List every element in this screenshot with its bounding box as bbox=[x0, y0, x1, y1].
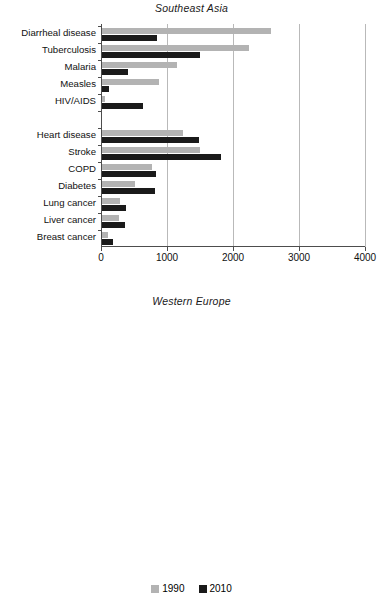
bar-2010 bbox=[102, 188, 155, 194]
y-axis-tick bbox=[98, 77, 101, 78]
y-axis-tick bbox=[98, 179, 101, 180]
bar-row-copd: COPD bbox=[101, 162, 365, 179]
bar-1990 bbox=[102, 198, 120, 204]
chart-title-southeast-asia: Southeast Asia bbox=[0, 2, 383, 14]
x-tick-label-2000: 2000 bbox=[222, 252, 244, 263]
bar-1990 bbox=[102, 62, 177, 68]
bar-row-diarrheal-disease: Diarrheal disease bbox=[101, 26, 365, 43]
x-tick-mark-2000 bbox=[233, 247, 234, 251]
y-axis-tick bbox=[98, 145, 101, 146]
x-tick-mark-4000 bbox=[365, 247, 366, 251]
bar-2010 bbox=[102, 69, 128, 75]
bar-1990 bbox=[102, 28, 271, 34]
category-label: Liver cancer bbox=[44, 214, 96, 225]
bar-row-measles: Measles bbox=[101, 77, 365, 94]
bar-2010 bbox=[102, 171, 156, 177]
y-axis-tick bbox=[98, 213, 101, 214]
bar-row-spacer bbox=[101, 111, 365, 128]
y-axis-tick bbox=[98, 60, 101, 61]
category-label: Breast cancer bbox=[37, 231, 96, 242]
figure-root: Southeast Asia 01000200030004000 Diarrhe… bbox=[0, 0, 383, 608]
legend-label-1990: 1990 bbox=[162, 583, 184, 594]
bar-1990 bbox=[102, 96, 105, 102]
legend-swatch-1990 bbox=[151, 585, 159, 593]
bar-row-lung-cancer: Lung cancer bbox=[101, 196, 365, 213]
x-tick-label-0: 0 bbox=[98, 252, 104, 263]
y-axis-tick bbox=[98, 162, 101, 163]
category-label: Heart disease bbox=[37, 129, 96, 140]
chart-panel-southeast-asia: Southeast Asia 01000200030004000 Diarrhe… bbox=[0, 0, 383, 285]
bar-row-tuberculosis: Tuberculosis bbox=[101, 43, 365, 60]
bar-row-hiv-aids: HIV/AIDS bbox=[101, 94, 365, 111]
bar-1990 bbox=[102, 181, 135, 187]
category-label: Stroke bbox=[68, 146, 96, 157]
legend-item-1990: 1990 bbox=[151, 583, 184, 594]
legend-item-2010: 2010 bbox=[199, 583, 232, 594]
gridline-4000 bbox=[365, 24, 366, 247]
bar-1990 bbox=[102, 130, 183, 136]
x-tick-mark-1000 bbox=[167, 247, 168, 251]
category-label: Diabetes bbox=[58, 180, 96, 191]
bar-2010 bbox=[102, 52, 200, 58]
bar-2010 bbox=[102, 103, 143, 109]
bar-2010 bbox=[102, 154, 221, 160]
x-tick-label-1000: 1000 bbox=[156, 252, 178, 263]
bar-row-breast-cancer: Breast cancer bbox=[101, 230, 365, 247]
chart-title-western-europe: Western Europe bbox=[0, 295, 383, 307]
bar-2010 bbox=[102, 222, 125, 228]
category-label: HIV/AIDS bbox=[55, 95, 96, 106]
category-label: Measles bbox=[60, 78, 96, 89]
y-axis-tick bbox=[98, 43, 101, 44]
bar-row-liver-cancer: Liver cancer bbox=[101, 213, 365, 230]
bar-2010 bbox=[102, 137, 199, 143]
chart-panel-western-europe: Western Europe 01000200030004000 Diarrhe… bbox=[0, 295, 383, 575]
x-tick-label-3000: 3000 bbox=[288, 252, 310, 263]
bar-2010 bbox=[102, 86, 109, 92]
bar-row-diabetes: Diabetes bbox=[101, 179, 365, 196]
legend-label-2010: 2010 bbox=[210, 583, 232, 594]
bar-1990 bbox=[102, 79, 159, 85]
bar-1990 bbox=[102, 232, 108, 238]
bar-2010 bbox=[102, 35, 157, 41]
y-axis-tick bbox=[98, 128, 101, 129]
y-axis-tick bbox=[98, 230, 101, 231]
bar-row-heart-disease: Heart disease bbox=[101, 128, 365, 145]
category-label: Lung cancer bbox=[43, 197, 96, 208]
bar-1990 bbox=[102, 45, 249, 51]
bar-1990 bbox=[102, 215, 119, 221]
chart-legend: 1990 2010 bbox=[0, 583, 383, 594]
x-tick-mark-3000 bbox=[299, 247, 300, 251]
category-label: Tuberculosis bbox=[42, 44, 96, 55]
category-label: Diarrheal disease bbox=[21, 27, 96, 38]
legend-swatch-2010 bbox=[199, 585, 207, 593]
x-tick-mark-0 bbox=[101, 247, 102, 251]
x-axis-ticks-southeast-asia: 01000200030004000 bbox=[101, 247, 365, 265]
x-tick-label-4000: 4000 bbox=[354, 252, 376, 263]
y-axis-tick bbox=[98, 111, 101, 112]
plot-area-southeast-asia: 01000200030004000 Diarrheal diseaseTuber… bbox=[101, 24, 365, 247]
bar-2010 bbox=[102, 239, 113, 245]
y-axis-tick bbox=[98, 94, 101, 95]
bar-1990 bbox=[102, 164, 152, 170]
category-label: COPD bbox=[68, 163, 96, 174]
bar-2010 bbox=[102, 205, 126, 211]
bar-row-stroke: Stroke bbox=[101, 145, 365, 162]
bar-1990 bbox=[102, 147, 200, 153]
category-label: Malaria bbox=[65, 61, 96, 72]
y-axis-tick bbox=[98, 26, 101, 27]
bar-row-malaria: Malaria bbox=[101, 60, 365, 77]
y-axis-tick bbox=[98, 196, 101, 197]
